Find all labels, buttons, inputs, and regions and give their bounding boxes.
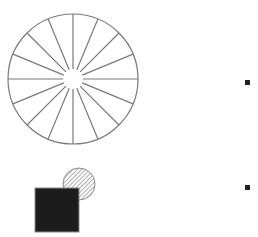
wheel-spoke (77, 19, 98, 70)
wheel-spoke (82, 83, 133, 104)
wheel-spokes (8, 14, 138, 144)
wheel-spoke (27, 33, 66, 72)
wheel-spoke (13, 83, 64, 104)
wheel-spoke (80, 33, 119, 72)
bullet-marker-1 (245, 80, 250, 85)
wheel-spoke (48, 19, 69, 70)
bullet-marker-2 (245, 185, 250, 190)
spoked-wheel (8, 14, 138, 144)
wheel-spoke (77, 88, 98, 139)
wheel-spoke (82, 54, 133, 75)
wheel-spoke (13, 54, 64, 75)
wheel-spoke (48, 88, 69, 139)
wheel-spoke (27, 86, 66, 125)
wheel-spoke (80, 86, 119, 125)
diagram-canvas (0, 0, 258, 237)
filled-square (35, 188, 79, 232)
overlapping-shapes (35, 168, 95, 232)
